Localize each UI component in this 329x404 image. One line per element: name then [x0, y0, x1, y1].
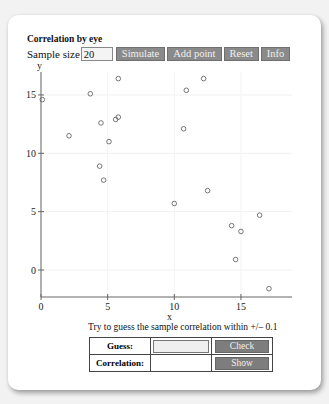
data-point [201, 76, 206, 81]
y-tick-label: 5 [31, 206, 36, 217]
grid-lines [41, 72, 292, 297]
correlation-label: Correlation: [90, 355, 151, 372]
data-point [101, 178, 106, 183]
x-axis-label: x [167, 311, 172, 322]
y-axis-label: y [37, 60, 42, 71]
x-tick-label: 5 [105, 301, 110, 312]
data-points [40, 76, 271, 291]
data-point [229, 223, 234, 228]
data-point [205, 188, 210, 193]
correlation-value [151, 355, 212, 372]
guess-row: Guess: Check [90, 338, 273, 355]
y-tick-label: 10 [26, 148, 36, 159]
correlation-row: Correlation: Show [90, 355, 273, 372]
data-point [233, 257, 238, 262]
x-tick-label: 0 [39, 301, 44, 312]
instruction-text: Try to guess the sample correlation with… [88, 322, 278, 332]
y-tick-label: 15 [26, 89, 36, 100]
guess-table: Guess: Check Correlation: Show [89, 337, 273, 372]
data-point [99, 121, 104, 126]
data-point [116, 76, 121, 81]
data-point [184, 88, 189, 93]
show-button[interactable]: Show [215, 357, 269, 370]
y-tick-label: 0 [31, 265, 36, 276]
check-button[interactable]: Check [215, 340, 269, 353]
data-point [267, 286, 272, 291]
x-tick-label: 15 [236, 301, 246, 312]
data-point [97, 164, 102, 169]
data-point [257, 213, 262, 218]
guess-label: Guess: [90, 338, 151, 355]
guess-input[interactable] [153, 340, 209, 353]
data-point [181, 126, 186, 131]
data-point [67, 133, 72, 138]
